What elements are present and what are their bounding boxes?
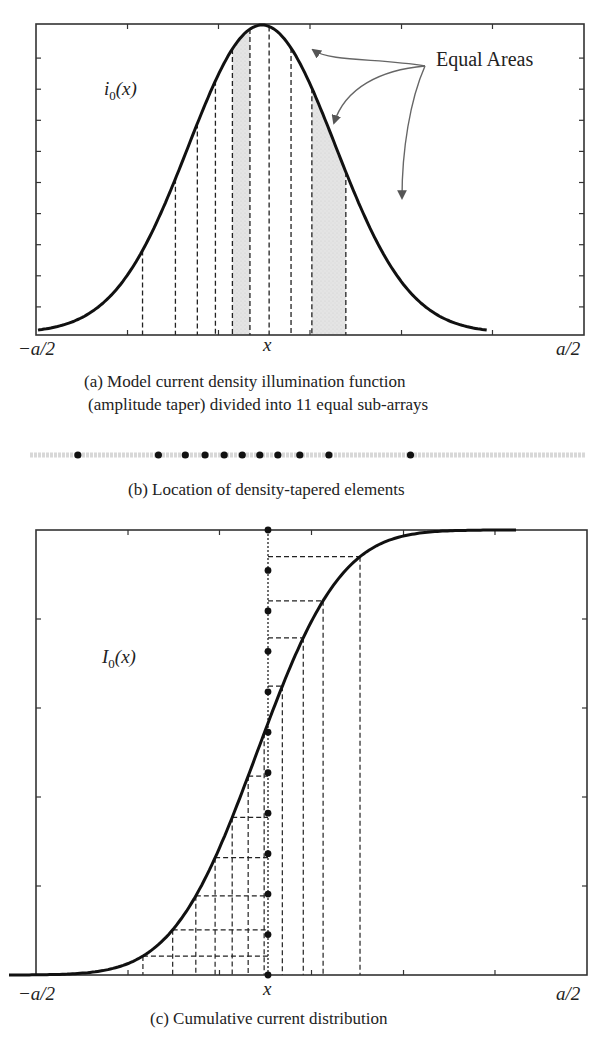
array-element-dot <box>296 451 303 458</box>
caption-c: (c) Cumulative current distribution <box>150 1009 388 1028</box>
level-dot <box>265 688 272 695</box>
level-dot <box>265 567 272 574</box>
caption-b: (b) Location of density-tapered elements <box>128 480 405 499</box>
level-dot <box>265 810 272 817</box>
function-label-i0: i0(x) <box>104 78 137 103</box>
level-dot <box>265 931 272 938</box>
level-dot <box>265 608 272 615</box>
equal-areas-label: Equal Areas <box>436 48 533 71</box>
axis-ticks-c <box>36 530 587 975</box>
x-right-label-c: a/2 <box>556 983 581 1004</box>
panel-b-element-locations: (b) Location of density-tapered elements <box>30 451 585 499</box>
array-element-dot <box>155 451 162 458</box>
array-element-dot <box>407 451 414 458</box>
function-label-I0: I0(x) <box>101 646 136 671</box>
array-element-dot <box>201 451 208 458</box>
x-right-label-a: a/2 <box>556 338 581 359</box>
array-element-dot <box>74 451 81 458</box>
panel-c-cumulative: I0(x) −a/2 x a/2 (c) Cumulative current … <box>9 527 587 1028</box>
x-center-label-a: x <box>262 334 272 355</box>
annotation-arrow <box>334 66 425 123</box>
array-element-dot <box>221 451 228 458</box>
array-element-dot <box>325 451 332 458</box>
panel-a-current-density: i0(x) Equal Areas −a/2 x a/2 (a) Model c… <box>18 24 584 414</box>
level-dot <box>265 891 272 898</box>
equal-area-band <box>232 29 250 335</box>
level-dot <box>265 729 272 736</box>
array-element-dot <box>256 451 263 458</box>
level-dot <box>265 648 272 655</box>
level-dot <box>265 769 272 776</box>
level-dot <box>265 527 272 534</box>
caption-a-line2: (amplitude taper) divided into 11 equal … <box>88 395 428 414</box>
plot-frame-c <box>36 530 587 975</box>
x-left-label-a: −a/2 <box>18 338 56 359</box>
x-center-label-c: x <box>262 978 272 999</box>
x-left-label-c: −a/2 <box>18 983 56 1004</box>
array-element-dot <box>274 451 281 458</box>
caption-a-line1: (a) Model current density illumination f… <box>84 372 406 391</box>
annotation-arrow <box>313 50 425 66</box>
cumulative-curve <box>9 530 516 975</box>
figure-canvas: i0(x) Equal Areas −a/2 x a/2 (a) Model c… <box>0 0 611 1039</box>
array-element-dot <box>239 451 246 458</box>
annotation-arrow <box>402 66 425 198</box>
array-element-dot <box>182 451 189 458</box>
amplitude-taper-curve <box>38 25 487 330</box>
level-dot <box>265 850 272 857</box>
